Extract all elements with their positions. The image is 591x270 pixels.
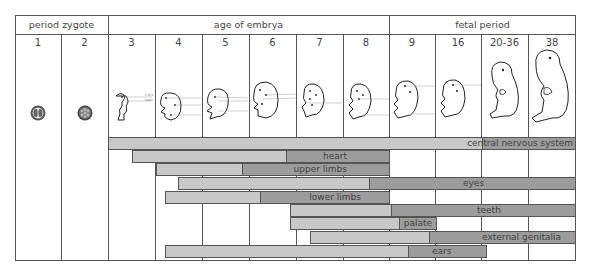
embryo-week-4-icon — [157, 90, 201, 126]
embryo-week-16-icon — [437, 77, 481, 121]
week-label-6: 6 — [249, 37, 296, 49]
bar-external-genitalia: external genitalia — [310, 231, 576, 244]
week-label-16: 16 — [435, 37, 481, 49]
column-divider — [61, 34, 62, 261]
bar-label: palate — [404, 218, 432, 229]
period-zygote-header: period zygote — [15, 15, 108, 34]
bar-label: teeth — [477, 205, 501, 216]
week-label-3: 3 — [108, 37, 155, 49]
embryo-week-8-icon — [345, 81, 389, 123]
bar-label: upper limbs — [294, 164, 347, 175]
bar-central-nervous-system: central nervous system — [108, 137, 576, 150]
week-label-8: 8 — [343, 37, 389, 49]
week-label-20-36: 20-36 — [481, 37, 528, 49]
week-label-2: 2 — [61, 37, 108, 49]
bar-teeth: teeth — [290, 204, 576, 217]
bar-label: lower limbs — [309, 192, 361, 203]
bar-label: ears — [432, 246, 451, 257]
fetal-period-header: fetal period — [389, 15, 576, 34]
morula-icon — [77, 105, 93, 125]
embryo-week-5-icon — [204, 87, 248, 123]
label-cns: C.N.S. — [145, 93, 154, 97]
bar-heart: heart — [132, 150, 390, 163]
bar-label: central nervous system — [467, 138, 573, 149]
bar-label: eyes — [463, 178, 484, 189]
two-cell-zygote-icon — [30, 105, 46, 125]
bar-label: external genitalia — [482, 232, 561, 243]
week-label-5: 5 — [202, 37, 249, 49]
age-of-embrya-header: age of embrya — [108, 15, 389, 34]
week-label-4: 4 — [155, 37, 202, 49]
embryo-week-9-icon — [390, 78, 436, 122]
bar-label: heart — [323, 151, 347, 162]
bar-eyes: eyes — [178, 177, 576, 190]
bar-lower-limbs: lower limbs — [165, 191, 390, 204]
week-label-9: 9 — [389, 37, 435, 49]
fetus-week-38-icon — [530, 48, 574, 124]
embryo-week-7-icon — [298, 81, 342, 121]
bar-upper-limbs: upper limbs — [156, 163, 390, 176]
bar-ears: ears — [165, 245, 487, 258]
embryo-week-6-icon — [250, 80, 296, 124]
label-heart: heart — [145, 98, 153, 102]
fetus-week-20-36-icon — [486, 60, 526, 122]
week-label-7: 7 — [296, 37, 343, 49]
week-label-1: 1 — [15, 37, 61, 49]
bar-palate: palate — [290, 217, 437, 230]
